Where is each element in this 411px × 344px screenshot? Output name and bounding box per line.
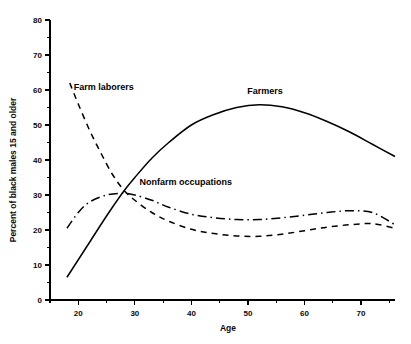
x-tick-label: 50 — [243, 309, 252, 318]
series-label-farmers: Farmers — [247, 86, 283, 96]
series-label-nonfarm-occupations: Nonfarm occupations — [139, 177, 232, 187]
y-tick-label: 60 — [33, 86, 42, 95]
x-tick-label: 40 — [187, 309, 196, 318]
plot-area: 01020304050607080 203040506070 FarmersFa… — [8, 16, 395, 333]
y-tick-label: 50 — [33, 121, 42, 130]
series-label-farm-laborers: Farm laborers — [74, 82, 134, 92]
y-axis-title: Percent of black males 15 and older — [8, 97, 18, 242]
y-tick-label: 70 — [33, 51, 42, 60]
y-axis-tick-labels: 01020304050607080 — [33, 16, 42, 305]
y-tick-label: 20 — [33, 226, 42, 235]
x-tick-label: 20 — [74, 309, 83, 318]
y-tick-label: 30 — [33, 191, 42, 200]
series-line-farm-laborers — [70, 83, 395, 236]
y-tick-label: 0 — [38, 296, 43, 305]
x-tick-label: 70 — [357, 309, 366, 318]
chart-container: 01020304050607080 203040506070 FarmersFa… — [0, 0, 411, 344]
x-tick-label: 60 — [300, 309, 309, 318]
x-tick-label: 30 — [130, 309, 139, 318]
x-axis-title: Age — [220, 323, 236, 333]
series-line-nonfarm-occupations — [67, 193, 395, 228]
y-tick-label: 40 — [33, 156, 42, 165]
x-axis-ticks — [50, 300, 389, 305]
x-axis-tick-labels: 203040506070 — [74, 309, 366, 318]
y-tick-label: 80 — [33, 16, 42, 25]
y-tick-label: 10 — [33, 261, 42, 270]
y-axis-ticks — [45, 20, 50, 300]
series-line-farmers — [67, 105, 395, 278]
line-chart: 01020304050607080 203040506070 FarmersFa… — [0, 0, 411, 344]
